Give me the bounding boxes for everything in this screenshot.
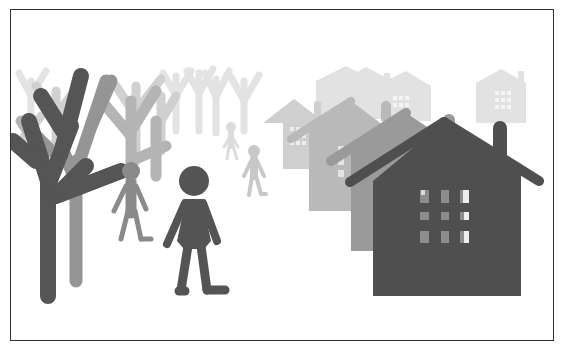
village-illustration — [11, 10, 553, 340]
person-mid-light — [244, 145, 266, 195]
illustration-frame — [10, 9, 554, 341]
person-far-faint — [224, 122, 238, 159]
house-windows — [420, 190, 469, 243]
person-head — [179, 166, 209, 196]
person-front-dark[interactable] — [167, 166, 225, 291]
